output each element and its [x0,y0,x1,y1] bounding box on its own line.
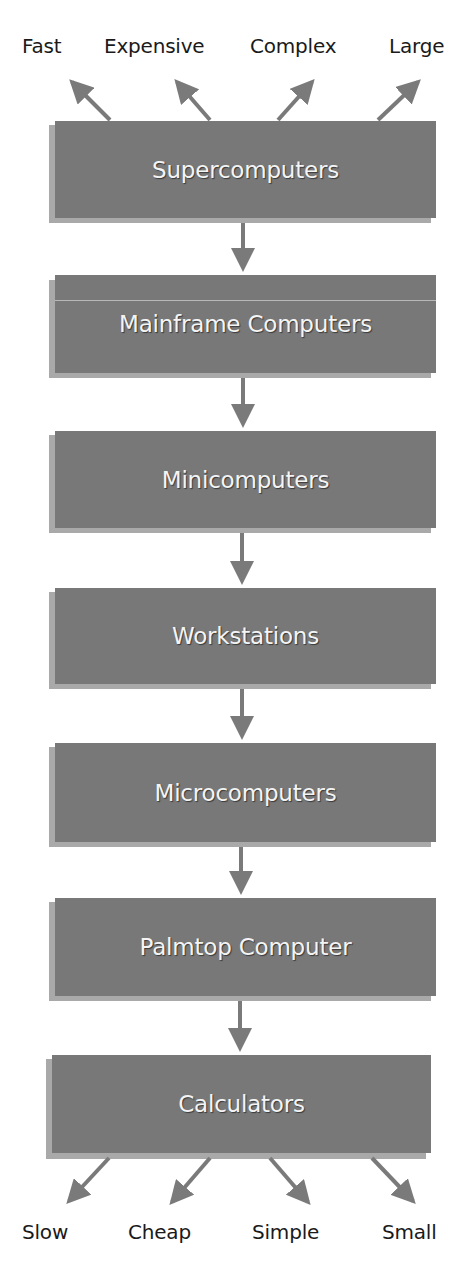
arrow-down-right-simple [270,1158,308,1202]
level-label: Microcomputers [154,780,336,806]
level-box-minicomputers: Minicomputers [55,431,436,528]
level-label: Workstations [172,623,319,649]
level-box-supercomputers: Supercomputers [55,121,436,218]
bottom-attribute-slow: Slow [22,1222,68,1242]
arrow-up-left-expensive [177,82,210,120]
level-label: Supercomputers [152,157,339,183]
scan-artifact-line [55,300,436,301]
level-box-palmtop-computer: Palmtop Computer [55,898,436,996]
arrow-down-left-slow [69,1158,109,1201]
arrow-up-left-fast [72,82,110,120]
top-attribute-large: Large [389,36,444,56]
arrow-down-right-small [372,1158,413,1201]
level-label: Minicomputers [162,467,330,493]
top-attribute-complex: Complex [250,36,336,56]
level-label: Mainframe Computers [119,311,372,337]
arrow-up-right-complex [278,82,312,120]
level-label: Calculators [178,1091,305,1117]
level-box-mainframe-computers: Mainframe Computers [55,275,436,373]
level-box-microcomputers: Microcomputers [55,743,436,842]
top-attribute-fast: Fast [22,36,61,56]
bottom-attribute-simple: Simple [252,1222,319,1242]
bottom-attribute-small: Small [382,1222,437,1242]
top-attribute-expensive: Expensive [104,36,204,56]
level-box-workstations: Workstations [55,588,436,684]
level-label: Palmtop Computer [140,934,352,960]
arrow-down-left-cheap [172,1158,210,1202]
level-box-calculators: Calculators [52,1055,431,1153]
arrow-up-right-large [378,82,418,120]
bottom-attribute-cheap: Cheap [128,1222,191,1242]
